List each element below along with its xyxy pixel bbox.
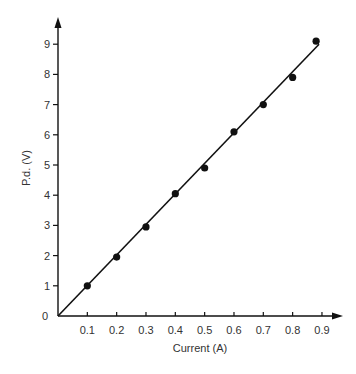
x-tick-label: 0.2: [109, 324, 124, 336]
pd-vs-current-chart: 0123456789 0.10.20.30.40.50.60.70.80.9 C…: [0, 0, 356, 374]
x-axis-ticks: 0.10.20.30.40.50.60.70.80.9: [80, 312, 330, 336]
x-tick-label: 0.5: [197, 324, 212, 336]
y-axis-label: P.d. (V): [20, 150, 32, 186]
y-tick-label: 2: [44, 250, 50, 262]
y-tick-label: 9: [44, 38, 50, 50]
x-tick-label: 0.7: [256, 324, 271, 336]
x-tick-label: 0.6: [226, 324, 241, 336]
y-tick-label: 4: [44, 189, 50, 201]
y-tick-label: 0: [42, 310, 48, 322]
x-tick-label: 0.1: [80, 324, 95, 336]
best-fit-line: [58, 44, 319, 316]
y-tick-label: 1: [44, 280, 50, 292]
data-point: [142, 223, 149, 230]
data-point: [289, 74, 296, 81]
data-point: [84, 282, 91, 289]
x-tick-label: 0.4: [168, 324, 183, 336]
x-tick-label: 0.9: [314, 324, 329, 336]
data-point: [172, 190, 179, 197]
x-tick-label: 0.8: [285, 324, 300, 336]
y-tick-label: 6: [44, 129, 50, 141]
data-point: [113, 254, 120, 261]
data-point: [313, 38, 320, 45]
y-tick-label: 8: [44, 68, 50, 80]
best-fit-line-path: [58, 44, 319, 316]
x-axis-label: Current (A): [173, 342, 227, 354]
y-axis-ticks: 0123456789: [42, 38, 58, 322]
y-tick-label: 7: [44, 99, 50, 111]
y-tick-label: 5: [44, 159, 50, 171]
data-point: [260, 101, 267, 108]
y-tick-label: 3: [44, 219, 50, 231]
x-tick-label: 0.3: [138, 324, 153, 336]
y-axis-arrow-icon: [55, 17, 62, 28]
data-point: [201, 164, 208, 171]
data-point: [230, 128, 237, 135]
x-axis-arrow-icon: [332, 313, 343, 320]
